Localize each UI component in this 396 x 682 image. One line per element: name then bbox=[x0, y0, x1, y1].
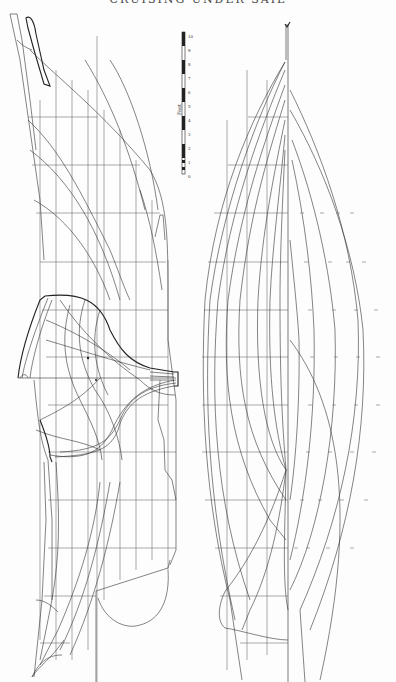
scale-tick: 10 bbox=[188, 30, 193, 44]
scale-ticks: 10 9 8 7 6 5 4 3 2 1 0 bbox=[188, 30, 193, 184]
scale-unit-label: Feet bbox=[176, 104, 182, 115]
body-plan-sections bbox=[18, 295, 178, 462]
scale-tick: 9 bbox=[188, 44, 193, 58]
scale-tick: 5 bbox=[188, 100, 193, 114]
scale-tick: 3 bbox=[188, 128, 193, 142]
profile-drawing bbox=[10, 14, 178, 682]
scale-tick: 8 bbox=[188, 58, 193, 72]
scale-bar bbox=[182, 32, 185, 174]
scale-tick: 0 bbox=[188, 170, 193, 184]
scale-tick: 4 bbox=[188, 114, 193, 128]
lines-plan-drawing bbox=[0, 0, 396, 682]
scale-tick: 1 bbox=[188, 156, 193, 170]
scale-tick: 6 bbox=[188, 86, 193, 100]
half-breadth-drawing bbox=[202, 22, 380, 682]
scale-tick: 2 bbox=[188, 142, 193, 156]
scale-tick: 7 bbox=[188, 72, 193, 86]
